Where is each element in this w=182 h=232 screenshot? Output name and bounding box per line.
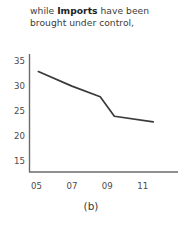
y-axis-tick-labels: 3530252015 bbox=[0, 44, 25, 194]
line-chart: 3530252015 05070911 bbox=[0, 44, 182, 194]
x-tick-label-09: 09 bbox=[95, 182, 119, 191]
chart-canvas bbox=[0, 44, 182, 194]
subfigure-label: (b) bbox=[0, 200, 182, 212]
caption-line1-pre: while bbox=[30, 5, 57, 16]
x-tick-label-07: 07 bbox=[60, 182, 84, 191]
y-tick-label-25: 25 bbox=[3, 107, 25, 116]
caption-line1-bold: Imports bbox=[57, 5, 97, 16]
x-tick-label-05: 05 bbox=[25, 182, 49, 191]
imports-series-line bbox=[38, 72, 153, 122]
y-tick-label-35: 35 bbox=[3, 57, 25, 66]
figure-panel-b: while Imports have been brought under co… bbox=[0, 0, 182, 232]
x-axis-tick-labels: 05070911 bbox=[0, 176, 182, 194]
chart-axes bbox=[29, 54, 178, 172]
y-tick-label-20: 20 bbox=[3, 132, 25, 141]
figure-caption-text: while Imports have been brought under co… bbox=[30, 5, 182, 30]
y-tick-label-30: 30 bbox=[3, 82, 25, 91]
y-tick-label-15: 15 bbox=[3, 157, 25, 166]
x-tick-label-11: 11 bbox=[131, 182, 155, 191]
caption-line2: brought under control, bbox=[30, 17, 134, 28]
caption-line1-post: have been bbox=[98, 5, 150, 16]
